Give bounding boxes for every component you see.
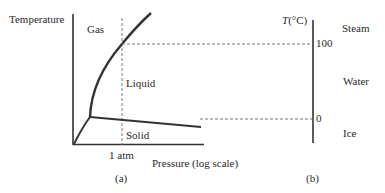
tick-label-0: 0 — [316, 113, 322, 124]
sublimation-curve — [74, 117, 90, 144]
melting-curve — [90, 117, 201, 127]
caption-a: (a) — [115, 173, 127, 184]
phase-label-steam: Steam — [342, 23, 370, 34]
temperature-scale-label: T(°C) — [282, 15, 307, 26]
region-label-gas: Gas — [87, 24, 104, 35]
temperature-unit: (°C) — [288, 14, 307, 26]
caption-b: (b) — [306, 173, 319, 184]
tick-label-100: 100 — [316, 38, 333, 49]
y-axis-label: Temperature — [9, 14, 64, 25]
x-axis-label: Pressure (log scale) — [152, 158, 238, 169]
phase-label-water: Water — [343, 76, 369, 87]
phase-label-ice: Ice — [343, 128, 356, 139]
x-tick-label-1-atm: 1 atm — [109, 150, 134, 161]
region-label-liquid: Liquid — [126, 78, 155, 89]
region-label-solid: Solid — [126, 130, 149, 141]
